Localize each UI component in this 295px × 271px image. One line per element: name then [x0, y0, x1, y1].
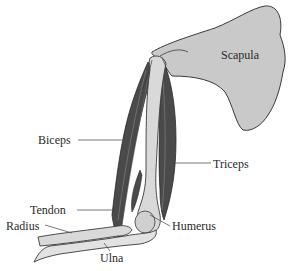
label-scapula: Scapula — [221, 49, 259, 61]
label-ulna: Ulna — [100, 252, 123, 264]
label-radius: Radius — [6, 220, 39, 232]
label-tendon: Tendon — [30, 204, 66, 216]
label-biceps: Biceps — [38, 134, 71, 146]
label-humerus: Humerus — [172, 220, 216, 232]
arm-diagram: Scapula Biceps Triceps Tendon Humerus Ra… — [0, 0, 295, 271]
label-triceps: Triceps — [213, 158, 249, 170]
